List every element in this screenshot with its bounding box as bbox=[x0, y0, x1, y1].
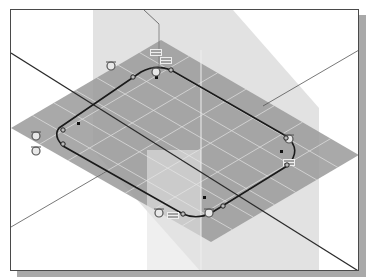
center-point[interactable] bbox=[203, 196, 206, 199]
tangent-point-marker[interactable] bbox=[131, 75, 135, 79]
tangent-point-marker[interactable] bbox=[284, 136, 288, 140]
tangent-constraint-icon[interactable] bbox=[31, 132, 41, 140]
tangent-point-marker[interactable] bbox=[61, 128, 65, 132]
tangent-constraint-icon[interactable] bbox=[204, 209, 214, 217]
tangent-point-marker[interactable] bbox=[169, 68, 173, 72]
tangent-constraint-icon[interactable] bbox=[31, 147, 41, 155]
sketch-canvas[interactable] bbox=[11, 10, 359, 271]
tangent-constraint-icon[interactable] bbox=[106, 62, 116, 70]
center-point[interactable] bbox=[77, 122, 80, 125]
tangent-constraint-icon[interactable] bbox=[151, 68, 161, 76]
tangent-point-marker[interactable] bbox=[181, 212, 185, 216]
center-point[interactable] bbox=[280, 150, 283, 153]
tangent-point-marker[interactable] bbox=[61, 142, 65, 146]
sketch-viewport[interactable] bbox=[10, 9, 359, 271]
tangent-point-marker[interactable] bbox=[221, 204, 225, 208]
parallel-constraint-icon[interactable] bbox=[150, 49, 162, 56]
tangent-constraint-icon[interactable] bbox=[154, 209, 164, 217]
y-axis-line-lower[interactable] bbox=[11, 171, 107, 227]
parallel-constraint-icon[interactable] bbox=[160, 57, 172, 64]
tangent-point-marker[interactable] bbox=[285, 163, 289, 167]
vertical-plane-lower bbox=[147, 150, 201, 271]
parallel-constraint-icon[interactable] bbox=[167, 212, 179, 219]
